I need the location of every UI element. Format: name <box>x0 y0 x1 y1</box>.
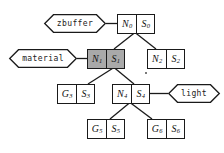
node-cell-left: N4 <box>113 85 131 103</box>
hex-node-material[interactable]: material <box>9 49 77 68</box>
node-label-n1: N <box>92 54 99 64</box>
state-subscript-s4: 4 <box>142 93 145 100</box>
node-cell-right: S0 <box>136 15 154 33</box>
state-label-s5: S <box>111 124 116 134</box>
node-label-g3: G <box>62 89 69 99</box>
state-label-s3: S <box>81 89 86 99</box>
state-label-s0: S <box>141 19 146 29</box>
edge-n0-n2 <box>135 33 156 50</box>
hexagon-shape <box>10 50 77 68</box>
state-subscript-s3: 3 <box>87 93 90 100</box>
edge-n0-n1 <box>114 33 135 50</box>
node-cell-right: S4 <box>131 85 149 103</box>
state-label-s2: S <box>171 54 176 64</box>
node-box-n0[interactable]: N0 S0 <box>117 14 155 34</box>
node-subscript-n1: 1 <box>99 58 102 65</box>
edge-n4-n5 <box>110 103 130 120</box>
node-box-g5[interactable]: G5 S5 <box>87 119 125 139</box>
node-subscript-n4: 4 <box>124 93 127 100</box>
edge-n4-n6 <box>130 103 152 120</box>
hexagon-shape <box>169 85 220 103</box>
node-cell-right: S6 <box>166 120 184 138</box>
state-label-s1: S <box>111 54 116 64</box>
scan-artifact-speck <box>145 72 147 74</box>
node-box-n2[interactable]: N2 S2 <box>147 49 185 69</box>
node-label-n4: N <box>117 89 124 99</box>
node-subscript-g3: 3 <box>69 93 72 100</box>
node-subscript-g6: 6 <box>159 128 162 135</box>
node-cell-right: S2 <box>166 50 184 68</box>
state-subscript-s2: 2 <box>177 58 180 65</box>
state-label-s6: S <box>171 124 176 134</box>
node-box-g6[interactable]: G6 S6 <box>147 119 185 139</box>
node-label-g5: G <box>92 124 99 134</box>
hex-node-light[interactable]: light <box>168 84 220 103</box>
node-label-g6: G <box>152 124 159 134</box>
state-subscript-s5: 5 <box>117 128 120 135</box>
node-box-n1[interactable]: N1 S1 <box>87 49 125 69</box>
node-cell-right: S1 <box>106 50 124 68</box>
node-subscript-g5: 5 <box>99 128 102 135</box>
node-label-n0: N <box>122 19 129 29</box>
node-subscript-n0: 0 <box>129 23 132 30</box>
node-cell-left: G5 <box>88 120 106 138</box>
node-box-g3[interactable]: G3 S3 <box>57 84 95 104</box>
state-label-s4: S <box>136 89 141 99</box>
node-subscript-n2: 2 <box>159 58 162 65</box>
scene-graph-diagram: zbuffer material light N0 S0 N1 S1 N2 S2… <box>0 0 224 153</box>
node-cell-left: G6 <box>148 120 166 138</box>
node-cell-left: N1 <box>88 50 106 68</box>
node-cell-right: S3 <box>76 85 94 103</box>
node-label-n2: N <box>152 54 159 64</box>
node-cell-left: N0 <box>118 15 136 33</box>
edge-n1-n3 <box>88 68 114 85</box>
node-cell-left: N2 <box>148 50 166 68</box>
node-cell-left: G3 <box>58 85 76 103</box>
hex-node-zbuffer[interactable]: zbuffer <box>44 14 106 33</box>
node-box-n4[interactable]: N4 S4 <box>112 84 150 104</box>
hexagon-shape <box>45 15 106 33</box>
node-cell-right: S5 <box>106 120 124 138</box>
state-subscript-s6: 6 <box>177 128 180 135</box>
state-subscript-s1: 1 <box>117 58 120 65</box>
state-subscript-s0: 0 <box>147 23 150 30</box>
edge-n1-n4 <box>114 68 134 85</box>
